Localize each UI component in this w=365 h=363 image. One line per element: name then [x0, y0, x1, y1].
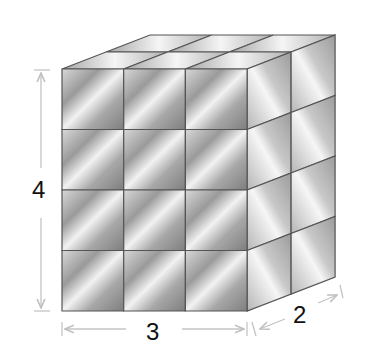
front-cube-face — [185, 69, 247, 130]
front-cube-face — [124, 130, 186, 191]
front-cube-face — [124, 251, 186, 312]
front-cube-face — [62, 251, 124, 312]
front-cube-face — [185, 190, 247, 251]
cube-prism-diagram: 4 3 2 — [0, 0, 365, 363]
prism-drawing — [0, 0, 365, 363]
front-cube-face — [185, 251, 247, 312]
depth-label: 2 — [293, 303, 306, 327]
front-cube-face — [62, 69, 124, 130]
front-cube-face — [185, 130, 247, 191]
front-cube-face — [124, 69, 186, 130]
front-cube-face — [124, 190, 186, 251]
height-label: 4 — [32, 178, 45, 202]
length-label: 3 — [146, 320, 159, 344]
front-cube-face — [62, 190, 124, 251]
front-cube-face — [62, 130, 124, 191]
